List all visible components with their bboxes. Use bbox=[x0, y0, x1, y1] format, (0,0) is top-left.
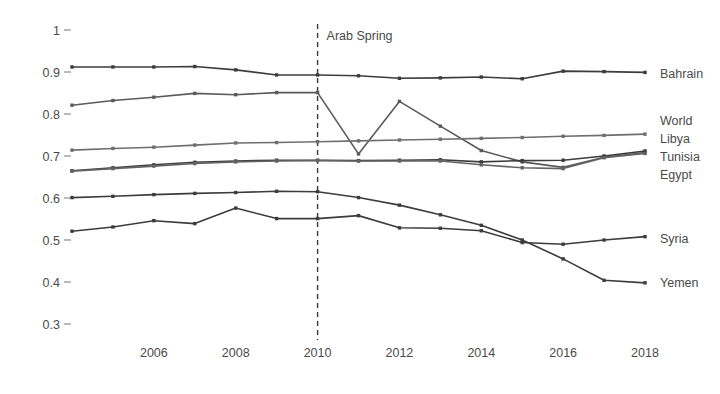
y-tick-label: 0.8 bbox=[43, 108, 60, 122]
data-point-marker bbox=[480, 224, 483, 227]
data-point-marker bbox=[152, 96, 155, 99]
data-point-marker bbox=[152, 219, 155, 222]
data-point-marker bbox=[152, 145, 155, 148]
x-tick-label: 2008 bbox=[222, 346, 250, 360]
data-point-marker bbox=[316, 140, 319, 143]
data-point-marker bbox=[439, 138, 442, 141]
data-point-marker bbox=[602, 279, 605, 282]
series-labels: BahrainLibyaWorldTunisiaEgyptYemenSyria bbox=[660, 67, 703, 291]
data-point-marker bbox=[234, 191, 237, 194]
data-point-marker bbox=[521, 136, 524, 139]
data-point-marker bbox=[561, 167, 564, 170]
data-point-marker bbox=[602, 156, 605, 159]
data-point-marker bbox=[439, 124, 442, 127]
data-point-marker bbox=[193, 222, 196, 225]
x-axis: 2006200820102012201420162018 bbox=[140, 346, 659, 360]
data-point-marker bbox=[234, 206, 237, 209]
x-tick-label: 2016 bbox=[549, 346, 577, 360]
data-point-marker bbox=[521, 159, 524, 162]
data-point-marker bbox=[643, 132, 646, 135]
data-point-marker bbox=[398, 138, 401, 141]
data-point-marker bbox=[111, 99, 114, 102]
x-tick-label: 2006 bbox=[140, 346, 168, 360]
series-label-syria: Syria bbox=[660, 232, 689, 246]
y-tick-label: 0.3 bbox=[43, 318, 60, 332]
series-label-world: World bbox=[660, 114, 692, 128]
data-point-marker bbox=[480, 75, 483, 78]
data-point-marker bbox=[111, 147, 114, 150]
data-point-marker bbox=[316, 159, 319, 162]
data-point-marker bbox=[357, 214, 360, 217]
y-tick-label: 0.4 bbox=[43, 276, 60, 290]
y-tick-label: 0.7 bbox=[43, 150, 60, 164]
data-point-marker bbox=[398, 100, 401, 103]
data-point-marker bbox=[439, 213, 442, 216]
y-axis: 10.90.80.70.60.50.40.3 bbox=[43, 24, 71, 332]
data-point-marker bbox=[111, 167, 114, 170]
data-point-marker bbox=[643, 281, 646, 284]
data-point-marker bbox=[602, 70, 605, 73]
data-point-marker bbox=[152, 164, 155, 167]
y-tick-label: 0.6 bbox=[43, 192, 60, 206]
series-label-libya: Libya bbox=[660, 132, 690, 146]
data-point-marker bbox=[111, 195, 114, 198]
data-point-marker bbox=[193, 65, 196, 68]
data-point-marker bbox=[398, 77, 401, 80]
data-point-marker bbox=[275, 141, 278, 144]
data-point-marker bbox=[152, 65, 155, 68]
data-point-marker bbox=[643, 235, 646, 238]
data-point-marker bbox=[521, 166, 524, 169]
data-point-marker bbox=[480, 229, 483, 232]
data-point-marker bbox=[357, 139, 360, 142]
data-point-marker bbox=[70, 65, 73, 68]
data-point-marker bbox=[193, 92, 196, 95]
data-point-marker bbox=[111, 65, 114, 68]
series-lines bbox=[70, 65, 646, 285]
x-tick-label: 2018 bbox=[631, 346, 659, 360]
data-point-marker bbox=[602, 238, 605, 241]
y-tick-label: 0.9 bbox=[43, 66, 60, 80]
data-point-marker bbox=[561, 135, 564, 138]
data-point-marker bbox=[70, 196, 73, 199]
data-point-marker bbox=[316, 190, 319, 193]
y-tick-label: 0.5 bbox=[43, 234, 60, 248]
data-point-marker bbox=[602, 134, 605, 137]
data-point-marker bbox=[398, 226, 401, 229]
data-point-marker bbox=[234, 93, 237, 96]
x-tick-label: 2014 bbox=[467, 346, 495, 360]
series-label-tunisia: Tunisia bbox=[660, 150, 700, 164]
data-point-marker bbox=[275, 217, 278, 220]
data-point-marker bbox=[561, 159, 564, 162]
data-point-marker bbox=[70, 103, 73, 106]
data-point-marker bbox=[275, 190, 278, 193]
data-point-marker bbox=[70, 229, 73, 232]
data-point-marker bbox=[357, 74, 360, 77]
data-point-marker bbox=[398, 159, 401, 162]
data-point-marker bbox=[316, 91, 319, 94]
arab-spring-annotation: Arab Spring bbox=[318, 24, 393, 340]
x-tick-label: 2010 bbox=[304, 346, 332, 360]
series-line-yemen bbox=[72, 191, 645, 283]
data-point-marker bbox=[480, 137, 483, 140]
series-label-egypt: Egypt bbox=[660, 168, 692, 182]
data-point-marker bbox=[234, 160, 237, 163]
data-point-marker bbox=[439, 76, 442, 79]
data-point-marker bbox=[111, 225, 114, 228]
data-point-marker bbox=[193, 162, 196, 165]
data-point-marker bbox=[439, 227, 442, 230]
data-point-marker bbox=[70, 148, 73, 151]
data-point-marker bbox=[561, 243, 564, 246]
arab-spring-label: Arab Spring bbox=[327, 29, 393, 43]
data-point-marker bbox=[480, 149, 483, 152]
data-point-marker bbox=[521, 241, 524, 244]
data-point-marker bbox=[480, 160, 483, 163]
data-point-marker bbox=[193, 143, 196, 146]
y-tick-label: 1 bbox=[53, 24, 60, 38]
data-point-marker bbox=[234, 141, 237, 144]
data-point-marker bbox=[357, 159, 360, 162]
data-point-marker bbox=[357, 196, 360, 199]
data-point-marker bbox=[643, 71, 646, 74]
data-point-marker bbox=[70, 169, 73, 172]
data-point-marker bbox=[316, 73, 319, 76]
data-point-marker bbox=[234, 68, 237, 71]
